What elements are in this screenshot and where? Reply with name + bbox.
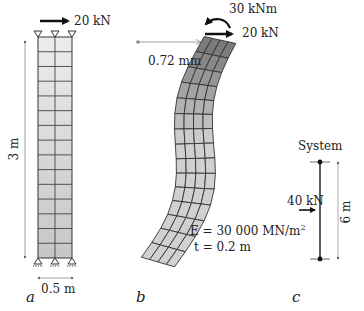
panel-c-caption: c — [292, 290, 300, 305]
top-hinge-icon — [318, 160, 323, 165]
panel-a-width-label: 0.5 m — [41, 283, 75, 295]
bottom-support-icons — [33, 258, 77, 266]
panel-b-thickness-label: t = 0.2 m — [194, 241, 251, 253]
panel-a-load-label: 20 kN — [74, 15, 111, 27]
bottom-hinge-icon — [318, 257, 323, 262]
top-support-icons — [34, 31, 76, 37]
panel-b-load-label: 20 kN — [242, 27, 279, 39]
panel-b-caption: b — [136, 290, 146, 305]
panel-c-system — [299, 160, 338, 262]
panel-a-caption: a — [26, 290, 35, 305]
panel-c-load-label: 40 kN — [287, 195, 324, 207]
moment-arrow-icon — [206, 19, 230, 28]
panel-b-modulus-label: E = 30 000 MN/m2 — [190, 224, 306, 237]
panel-c-title: System — [298, 140, 342, 152]
panel-a-undeformed-mesh — [25, 21, 77, 278]
panel-b-moment-label: 30 kNm — [229, 3, 277, 15]
panel-a-height-label: 3 m — [8, 137, 20, 161]
panel-b-displacement-label: 0.72 mm — [148, 55, 201, 67]
diagram-canvas — [0, 0, 364, 311]
panel-c-height-label: 6 m — [340, 200, 352, 224]
